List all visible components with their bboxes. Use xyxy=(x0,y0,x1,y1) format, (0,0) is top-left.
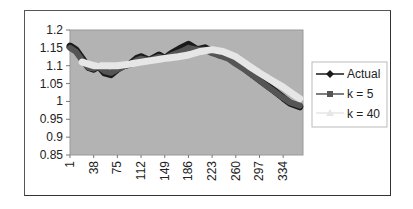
x-tick-label: 1 xyxy=(63,161,77,168)
y-tick-label: 1.2 xyxy=(46,23,63,37)
legend-label: k = 5 xyxy=(347,87,374,101)
y-axis: 1.21.151.11.0510.950.90.85 xyxy=(40,23,70,162)
y-tick-label: 1.05 xyxy=(40,77,64,91)
line-chart: 1.21.151.11.0510.950.90.85 1387511214918… xyxy=(0,0,413,209)
y-tick-label: 0.85 xyxy=(40,148,64,162)
y-tick-label: 1 xyxy=(56,94,63,108)
legend: Actual k = 5 k = 40 xyxy=(312,62,387,127)
square-marker-icon xyxy=(327,91,333,97)
y-tick-label: 1.15 xyxy=(40,41,64,55)
x-tick-label: 75 xyxy=(110,161,124,175)
x-tick-label: 334 xyxy=(276,161,290,181)
x-tick-label: 260 xyxy=(229,161,243,181)
y-tick-label: 0.9 xyxy=(46,130,63,144)
x-tick-label: 297 xyxy=(252,161,266,181)
x-tick-label: 223 xyxy=(205,161,219,181)
legend-label: k = 40 xyxy=(347,107,380,121)
x-tick-label: 186 xyxy=(181,161,195,181)
x-tick-label: 149 xyxy=(158,161,172,181)
legend-label: Actual xyxy=(347,67,380,81)
y-tick-label: 1.1 xyxy=(46,59,63,73)
x-axis: 13875112149186223260297334 xyxy=(63,155,290,181)
x-tick-label: 112 xyxy=(134,161,148,180)
x-tick-label: 38 xyxy=(87,161,101,175)
y-tick-label: 0.95 xyxy=(40,112,64,126)
